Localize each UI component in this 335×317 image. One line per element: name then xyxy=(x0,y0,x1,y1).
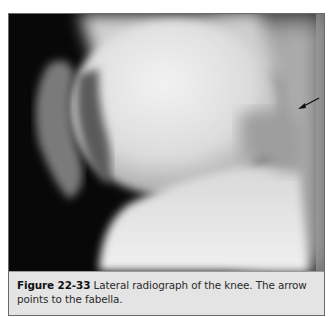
arrow-annotation-icon xyxy=(295,94,321,114)
knee-radiograph-image xyxy=(9,14,325,271)
figure-label: Figure 22-33 xyxy=(17,279,90,291)
figure-caption: Figure 22-33 Lateral radiograph of the k… xyxy=(9,271,324,316)
figure: Figure 22-33 Lateral radiograph of the k… xyxy=(8,13,325,316)
